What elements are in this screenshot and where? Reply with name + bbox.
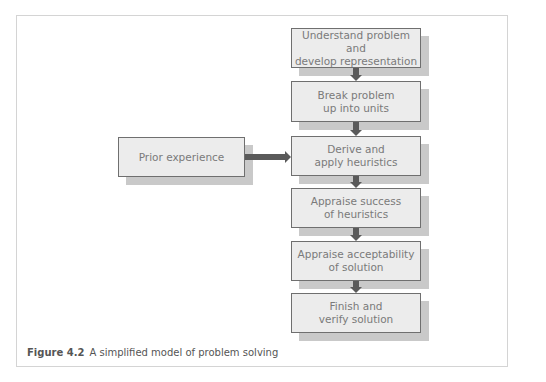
flow-step-label: Understand problem and develop represent…	[292, 29, 420, 68]
arrow-down-icon	[353, 122, 359, 131]
figure-caption: Figure 4.2A simplified model of problem …	[27, 347, 278, 358]
flow-step-1: Understand problem and develop represent…	[291, 28, 421, 68]
flow-step-6: Finish and verify solution	[291, 293, 421, 333]
flow-step-label: Appraise acceptability of solution	[298, 248, 415, 274]
figure-caption-text: A simplified model of problem solving	[89, 347, 278, 358]
prior-experience-label: Prior experience	[139, 151, 225, 164]
arrow-down-icon	[353, 68, 359, 76]
flow-step-label: Derive and apply heuristics	[315, 143, 398, 169]
figure-frame	[16, 15, 508, 367]
arrow-right-icon	[245, 154, 285, 160]
flow-step-label: Break problem up into units	[317, 89, 394, 115]
flow-step-2: Break problem up into units	[291, 81, 421, 122]
flow-step-4: Appraise success of heuristics	[291, 188, 421, 228]
flow-step-label: Finish and verify solution	[319, 300, 394, 326]
prior-experience-box: Prior experience	[118, 137, 245, 177]
flow-step-label: Appraise success of heuristics	[311, 195, 402, 221]
arrow-down-icon	[353, 176, 359, 183]
flow-step-5: Appraise acceptability of solution	[291, 241, 421, 281]
arrow-down-icon	[353, 228, 359, 236]
figure-number: Figure 4.2	[27, 347, 84, 358]
flow-step-3: Derive and apply heuristics	[291, 136, 421, 176]
arrow-down-icon	[353, 281, 359, 288]
cut-off-text-line	[40, 0, 500, 4]
